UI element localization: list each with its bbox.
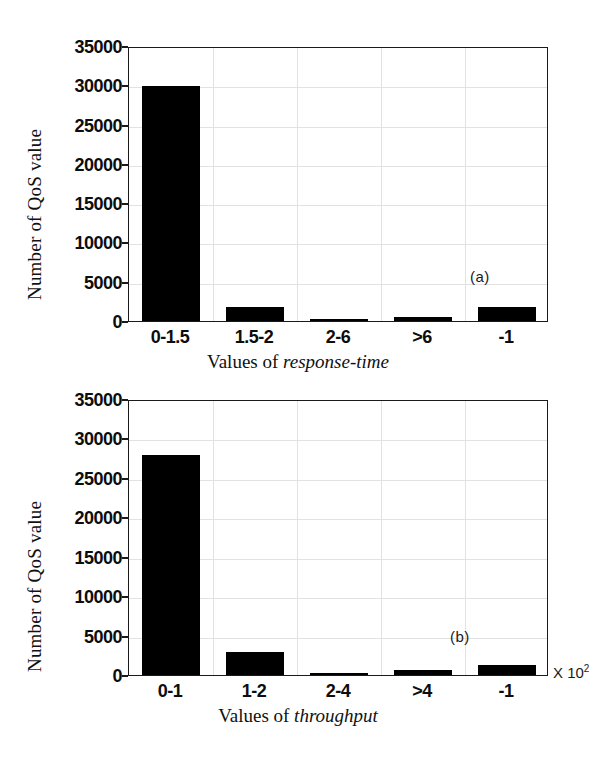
- y-tick-label: 10000: [74, 234, 122, 252]
- bar--1: [478, 307, 537, 321]
- y-axis-ticklabels-b: 05000100001500020000250003000035000: [32, 380, 122, 696]
- x-tick-label: 2-6: [296, 327, 380, 348]
- x-axis-title-a: Values of response-time: [88, 351, 508, 373]
- x-axis-title-prefix-a: Values of: [207, 351, 283, 372]
- y-tick-label: 25000: [74, 117, 122, 135]
- y-tick-label: 0: [112, 667, 122, 685]
- x-tick-label: >6: [380, 327, 464, 348]
- bar-1.5-2: [226, 307, 285, 321]
- x-axis-title-emphasis-a: response-time: [283, 351, 389, 372]
- y-tick-mark: [122, 46, 128, 48]
- y-tick-mark: [122, 321, 128, 323]
- gridline-vertical: [297, 401, 298, 675]
- x-tick-label: 2-4: [296, 681, 380, 702]
- y-tick-label: 20000: [74, 509, 122, 527]
- y-tick-mark: [122, 438, 128, 440]
- unit-note-text: X 10: [553, 664, 584, 681]
- y-tick-mark: [122, 636, 128, 638]
- y-tick-label: 35000: [74, 391, 122, 409]
- y-axis-unit-note-b: X 102: [553, 663, 589, 681]
- gridline-vertical: [381, 48, 382, 321]
- y-tick-label: 15000: [74, 195, 122, 213]
- x-tick-label: -1: [464, 681, 548, 702]
- gridline-vertical: [213, 48, 214, 321]
- bar-0-1.5: [142, 86, 201, 321]
- y-tick-mark: [122, 399, 128, 401]
- y-tick-mark: [122, 282, 128, 284]
- unit-note-exponent: 2: [584, 663, 589, 674]
- y-tick-label: 20000: [74, 156, 122, 174]
- bar-0-1: [142, 455, 201, 675]
- bar--1: [478, 665, 537, 675]
- y-tick-label: 0: [112, 313, 122, 331]
- bar-2-6: [310, 319, 369, 321]
- panel-label-a: (a): [470, 268, 490, 285]
- x-tick-label: >4: [380, 681, 464, 702]
- y-tick-label: 35000: [74, 38, 122, 56]
- panel-label-b: (b): [450, 628, 470, 645]
- x-tick-label: 0-1: [128, 681, 212, 702]
- y-tick-label: 25000: [74, 470, 122, 488]
- y-tick-mark: [122, 242, 128, 244]
- gridline-vertical: [381, 401, 382, 675]
- chart-panel-a: Number of QoS value 05000100001500020000…: [0, 0, 585, 380]
- y-tick-mark: [122, 517, 128, 519]
- y-tick-label: 30000: [74, 430, 122, 448]
- x-tick-label: -1: [464, 327, 548, 348]
- gridline-vertical: [213, 401, 214, 675]
- x-axis-title-emphasis-b: throughput: [294, 705, 378, 726]
- y-tick-mark: [122, 557, 128, 559]
- y-tick-label: 5000: [84, 274, 122, 292]
- gridline-vertical: [297, 48, 298, 321]
- y-tick-label: 10000: [74, 588, 122, 606]
- y-tick-mark: [122, 596, 128, 598]
- bar->4: [394, 670, 453, 675]
- y-tick-label: 5000: [84, 628, 122, 646]
- x-axis-title-b: Values of throughput: [88, 705, 508, 727]
- y-tick-mark: [122, 85, 128, 87]
- x-axis-title-prefix-b: Values of: [218, 705, 294, 726]
- y-tick-mark: [122, 164, 128, 166]
- x-tick-label: 1.5-2: [212, 327, 296, 348]
- y-tick-mark: [122, 125, 128, 127]
- y-tick-mark: [122, 675, 128, 677]
- y-tick-label: 15000: [74, 549, 122, 567]
- bar->6: [394, 317, 453, 321]
- y-axis-ticklabels-a: 05000100001500020000250003000035000: [32, 0, 122, 342]
- gridline-vertical: [465, 48, 466, 321]
- y-tick-mark: [122, 478, 128, 480]
- y-tick-label: 30000: [74, 77, 122, 95]
- bar-2-4: [310, 673, 369, 675]
- y-tick-mark: [122, 203, 128, 205]
- x-tick-label: 0-1.5: [128, 327, 212, 348]
- chart-panel-b: Number of QoS value 05000100001500020000…: [0, 380, 585, 761]
- gridline-horizontal: [129, 440, 547, 441]
- x-tick-label: 1-2: [212, 681, 296, 702]
- plot-area-b: [128, 400, 548, 676]
- bar-1-2: [226, 652, 285, 675]
